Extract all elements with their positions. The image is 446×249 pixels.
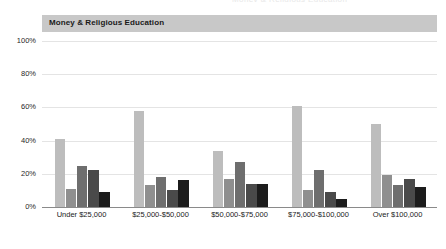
bar xyxy=(303,190,314,207)
bar xyxy=(292,106,303,207)
bar xyxy=(178,180,189,207)
y-axis-tick-label: 60% xyxy=(21,103,36,111)
y-axis-tick-label: 100% xyxy=(17,37,36,45)
bar-group xyxy=(292,41,348,207)
bar-group xyxy=(55,41,111,207)
bar xyxy=(156,177,167,207)
bar xyxy=(167,190,178,207)
bar-group xyxy=(371,41,427,207)
bar xyxy=(99,192,110,207)
bar xyxy=(77,166,88,208)
bar xyxy=(314,170,325,207)
bar xyxy=(415,187,426,207)
bar xyxy=(213,151,224,207)
x-axis-tick-label: Over $100,000 xyxy=(358,210,437,220)
bar xyxy=(55,139,66,207)
bar xyxy=(246,184,257,207)
bar xyxy=(393,185,404,207)
y-axis-labels: 0%20%40%60%80%100% xyxy=(0,41,38,207)
bar xyxy=(404,179,415,207)
chart-header-band: Money & Religious Education xyxy=(42,15,437,32)
y-axis-tick-label: 80% xyxy=(21,70,36,78)
y-axis-tick-label: 20% xyxy=(21,170,36,178)
chart-title: Money & Religious Education xyxy=(49,18,164,27)
y-axis-tick-label: 0% xyxy=(25,203,36,211)
bar xyxy=(235,162,246,207)
y-axis-tick-label: 40% xyxy=(21,137,36,145)
x-axis-labels: Under $25,000$25,000-$50,000$50,000-$75,… xyxy=(42,210,437,224)
plot-area xyxy=(42,41,437,207)
bar xyxy=(224,179,235,207)
bar xyxy=(257,184,268,207)
bar xyxy=(382,175,393,207)
x-axis-tick-label: $75,000-$100,000 xyxy=(279,210,358,220)
bar xyxy=(66,189,77,207)
bar xyxy=(371,124,382,207)
x-axis-tick-label: $50,000-$75,000 xyxy=(200,210,279,220)
x-axis-tick-label: $25,000-$50,000 xyxy=(121,210,200,220)
bar xyxy=(145,185,156,207)
x-axis-line xyxy=(42,207,437,208)
bar xyxy=(336,199,347,207)
bar xyxy=(325,192,336,207)
bar xyxy=(134,111,145,207)
bar-group xyxy=(134,41,190,207)
chart-screenshot: Money & Religious Education Money & Reli… xyxy=(0,0,446,249)
clipped-header-text: Money & Religious Education xyxy=(232,0,347,2)
bar-group xyxy=(213,41,269,207)
bar xyxy=(88,170,99,207)
x-axis-tick-label: Under $25,000 xyxy=(42,210,121,220)
